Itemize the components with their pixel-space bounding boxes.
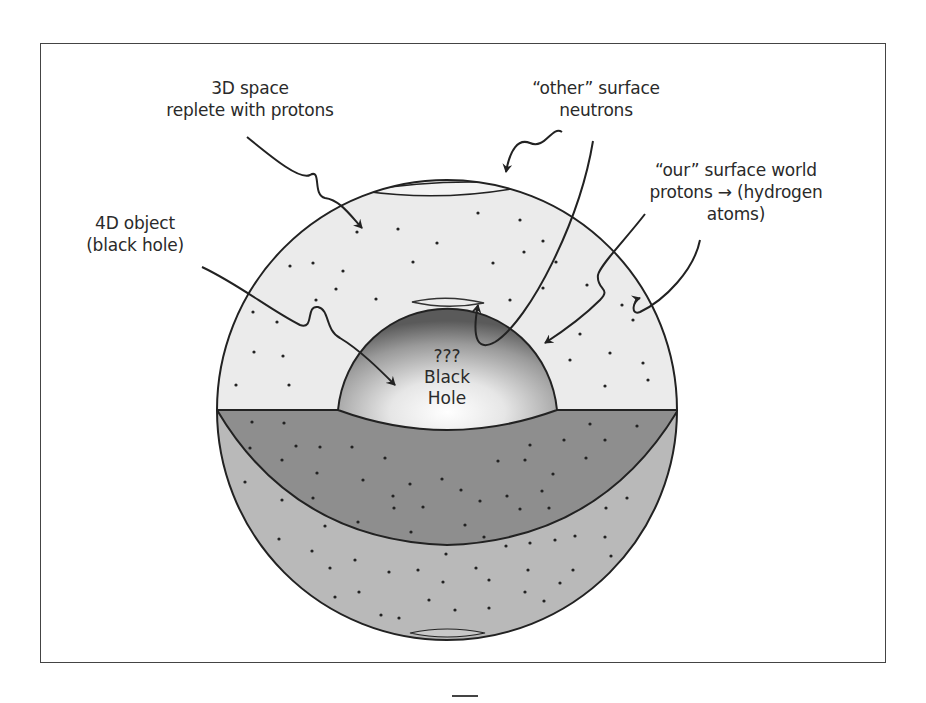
label-black-hole-line1: ??? bbox=[397, 346, 497, 367]
label-other-surface: “other” surface neutrons bbox=[508, 77, 684, 121]
label-our-surface-line2: protons → (hydrogen bbox=[620, 181, 852, 203]
leader-other-surface-cap bbox=[506, 131, 562, 172]
label-other-surface-line1: “other” surface bbox=[508, 77, 684, 99]
label-4d-object-line2: (black hole) bbox=[65, 234, 205, 256]
label-3d-space: 3D space replete with protons bbox=[150, 77, 350, 121]
label-4d-object-line1: 4D object bbox=[65, 212, 205, 234]
footer-mark bbox=[452, 695, 478, 697]
label-black-hole-line3: Hole bbox=[397, 388, 497, 409]
label-3d-space-line1: 3D space bbox=[150, 77, 350, 99]
label-black-hole-line2: Black bbox=[397, 367, 497, 388]
label-3d-space-line2: replete with protons bbox=[150, 99, 350, 121]
label-other-surface-line2: neutrons bbox=[508, 99, 684, 121]
label-our-surface: “our” surface world protons → (hydrogen … bbox=[620, 159, 852, 225]
label-4d-object: 4D object (black hole) bbox=[65, 212, 205, 256]
label-our-surface-line3: atoms) bbox=[620, 203, 852, 225]
label-black-hole: ??? Black Hole bbox=[397, 346, 497, 409]
label-our-surface-line1: “our” surface world bbox=[620, 159, 852, 181]
